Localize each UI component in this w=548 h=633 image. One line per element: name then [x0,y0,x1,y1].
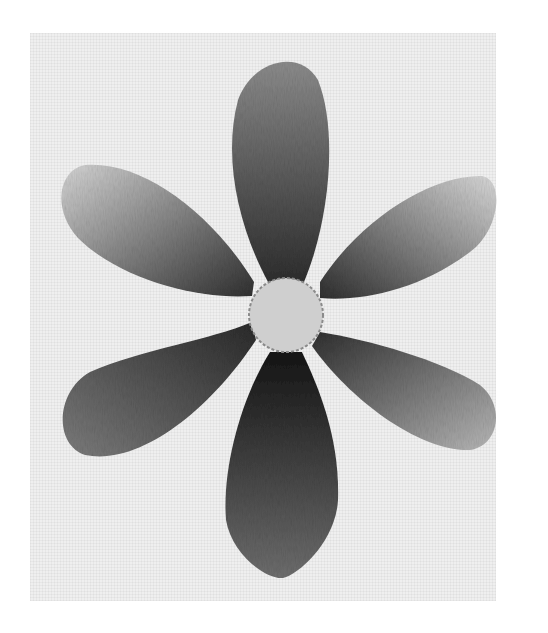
flower-center [249,278,323,352]
photo-canvas [0,0,548,633]
petal-upper-right [320,176,496,299]
petal-bottom [225,352,338,578]
petal-upper-left [61,165,254,297]
petal-top [232,62,329,282]
embroidered-flower [0,0,548,633]
petal-lower-left [63,322,256,456]
petal-lower-right [312,332,496,450]
